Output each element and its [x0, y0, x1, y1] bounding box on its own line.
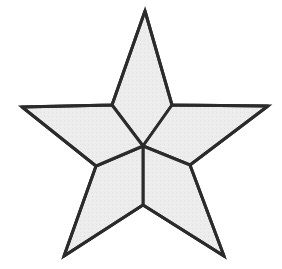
- star-diagram: [0, 0, 282, 269]
- figure-canvas: [0, 0, 282, 269]
- segment-bottom-right[interactable]: [143, 146, 224, 256]
